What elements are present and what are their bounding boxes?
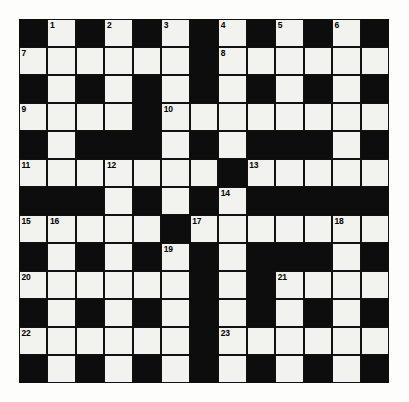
crossword-light-cell[interactable] — [304, 271, 332, 299]
crossword-light-cell[interactable]: 16 — [47, 215, 75, 243]
crossword-light-cell[interactable] — [332, 355, 360, 383]
crossword-light-cell[interactable] — [275, 327, 303, 355]
crossword-light-cell[interactable]: 8 — [218, 47, 246, 75]
crossword-light-cell[interactable] — [161, 187, 189, 215]
crossword-light-cell[interactable] — [161, 75, 189, 103]
crossword-light-cell[interactable] — [133, 271, 161, 299]
crossword-light-cell[interactable] — [332, 327, 360, 355]
crossword-light-cell[interactable] — [47, 159, 75, 187]
crossword-light-cell[interactable] — [275, 299, 303, 327]
crossword-light-cell[interactable]: 18 — [332, 215, 360, 243]
crossword-light-cell[interactable] — [361, 271, 389, 299]
crossword-light-cell[interactable]: 4 — [218, 19, 246, 47]
crossword-light-cell[interactable] — [247, 47, 275, 75]
crossword-light-cell[interactable]: 9 — [19, 103, 47, 131]
crossword-light-cell[interactable] — [247, 327, 275, 355]
crossword-light-cell[interactable] — [332, 243, 360, 271]
crossword-light-cell[interactable] — [190, 159, 218, 187]
crossword-light-cell[interactable] — [76, 103, 104, 131]
crossword-light-cell[interactable] — [275, 159, 303, 187]
crossword-light-cell[interactable] — [332, 75, 360, 103]
crossword-light-cell[interactable] — [332, 299, 360, 327]
crossword-light-cell[interactable] — [104, 47, 132, 75]
crossword-light-cell[interactable] — [133, 327, 161, 355]
crossword-light-cell[interactable]: 22 — [19, 327, 47, 355]
crossword-light-cell[interactable] — [247, 103, 275, 131]
crossword-light-cell[interactable] — [304, 215, 332, 243]
crossword-light-cell[interactable] — [161, 271, 189, 299]
crossword-light-cell[interactable] — [161, 131, 189, 159]
crossword-light-cell[interactable]: 5 — [275, 19, 303, 47]
crossword-light-cell[interactable] — [104, 327, 132, 355]
crossword-light-cell[interactable] — [161, 327, 189, 355]
crossword-light-cell[interactable] — [47, 355, 75, 383]
crossword-light-cell[interactable] — [275, 215, 303, 243]
crossword-light-cell[interactable] — [47, 131, 75, 159]
crossword-light-cell[interactable] — [247, 215, 275, 243]
crossword-light-cell[interactable] — [47, 327, 75, 355]
crossword-light-cell[interactable] — [104, 103, 132, 131]
crossword-light-cell[interactable] — [218, 75, 246, 103]
crossword-light-cell[interactable] — [332, 47, 360, 75]
crossword-light-cell[interactable]: 1 — [47, 19, 75, 47]
crossword-light-cell[interactable]: 19 — [161, 243, 189, 271]
crossword-light-cell[interactable] — [161, 355, 189, 383]
crossword-light-cell[interactable] — [332, 271, 360, 299]
crossword-light-cell[interactable] — [275, 47, 303, 75]
crossword-light-cell[interactable] — [332, 131, 360, 159]
crossword-light-cell[interactable] — [161, 47, 189, 75]
crossword-light-cell[interactable] — [361, 215, 389, 243]
crossword-light-cell[interactable] — [47, 103, 75, 131]
crossword-light-cell[interactable] — [218, 243, 246, 271]
crossword-light-cell[interactable]: 15 — [19, 215, 47, 243]
crossword-light-cell[interactable]: 20 — [19, 271, 47, 299]
crossword-light-cell[interactable] — [76, 271, 104, 299]
crossword-light-cell[interactable] — [361, 159, 389, 187]
crossword-light-cell[interactable]: 6 — [332, 19, 360, 47]
crossword-light-cell[interactable] — [304, 103, 332, 131]
crossword-light-cell[interactable] — [47, 243, 75, 271]
crossword-light-cell[interactable] — [133, 47, 161, 75]
crossword-light-cell[interactable] — [332, 159, 360, 187]
crossword-light-cell[interactable] — [104, 187, 132, 215]
crossword-light-cell[interactable] — [275, 103, 303, 131]
crossword-light-cell[interactable] — [161, 159, 189, 187]
crossword-light-cell[interactable] — [47, 271, 75, 299]
crossword-light-cell[interactable] — [218, 215, 246, 243]
crossword-light-cell[interactable]: 11 — [19, 159, 47, 187]
crossword-light-cell[interactable] — [275, 355, 303, 383]
crossword-light-cell[interactable] — [304, 159, 332, 187]
crossword-light-cell[interactable] — [161, 299, 189, 327]
crossword-light-cell[interactable] — [76, 327, 104, 355]
crossword-light-cell[interactable] — [76, 159, 104, 187]
crossword-light-cell[interactable] — [104, 355, 132, 383]
crossword-light-cell[interactable] — [218, 355, 246, 383]
crossword-light-cell[interactable] — [104, 75, 132, 103]
crossword-light-cell[interactable] — [218, 103, 246, 131]
crossword-light-cell[interactable] — [361, 103, 389, 131]
crossword-light-cell[interactable]: 2 — [104, 19, 132, 47]
crossword-light-cell[interactable] — [104, 271, 132, 299]
crossword-light-cell[interactable] — [275, 75, 303, 103]
crossword-light-cell[interactable]: 21 — [275, 271, 303, 299]
crossword-light-cell[interactable]: 7 — [19, 47, 47, 75]
crossword-light-cell[interactable] — [218, 271, 246, 299]
crossword-light-cell[interactable]: 17 — [190, 215, 218, 243]
crossword-light-cell[interactable] — [218, 131, 246, 159]
crossword-light-cell[interactable] — [361, 47, 389, 75]
crossword-light-cell[interactable] — [218, 299, 246, 327]
crossword-light-cell[interactable] — [76, 47, 104, 75]
crossword-light-cell[interactable] — [361, 327, 389, 355]
crossword-light-cell[interactable]: 3 — [161, 19, 189, 47]
crossword-light-cell[interactable]: 14 — [218, 187, 246, 215]
crossword-light-cell[interactable] — [304, 327, 332, 355]
crossword-light-cell[interactable] — [104, 299, 132, 327]
crossword-light-cell[interactable]: 12 — [104, 159, 132, 187]
crossword-light-cell[interactable] — [332, 103, 360, 131]
crossword-light-cell[interactable] — [76, 215, 104, 243]
crossword-light-cell[interactable]: 13 — [247, 159, 275, 187]
crossword-grid[interactable]: 1234567891011121314151617181920212223 — [19, 19, 389, 383]
crossword-light-cell[interactable] — [133, 159, 161, 187]
crossword-light-cell[interactable] — [133, 215, 161, 243]
crossword-light-cell[interactable] — [47, 299, 75, 327]
